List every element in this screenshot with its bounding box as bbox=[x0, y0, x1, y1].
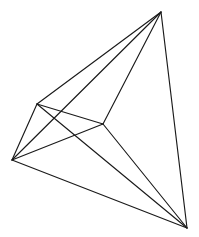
edge-ae bbox=[161, 12, 187, 228]
edge-ad bbox=[12, 12, 161, 160]
figure-canvas: Wireframe polyhedron line drawing bbox=[0, 0, 199, 237]
edge-de bbox=[12, 160, 187, 228]
edge-ce bbox=[103, 124, 187, 228]
edge-be bbox=[37, 104, 187, 228]
edge-ab bbox=[37, 12, 161, 104]
polyhedron-wireframe-svg bbox=[0, 0, 199, 237]
edge-ac bbox=[103, 12, 161, 124]
edge-bc bbox=[37, 104, 103, 124]
edge-group bbox=[12, 12, 187, 228]
